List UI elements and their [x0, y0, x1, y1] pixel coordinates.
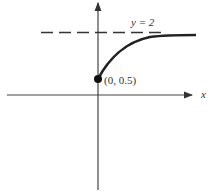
graph-canvas: y = 2 (0, 0.5) x: [0, 0, 210, 193]
start-point: [94, 75, 102, 83]
asymptote-label: y = 2: [130, 16, 155, 28]
x-axis-label: x: [200, 88, 206, 100]
function-curve: [98, 35, 196, 79]
point-label: (0, 0.5): [104, 74, 136, 87]
